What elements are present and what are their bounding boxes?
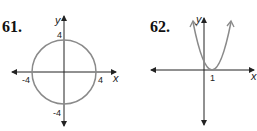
tick-bottom: -4 — [53, 108, 61, 118]
tick-x-1: 1 — [210, 73, 215, 83]
y-axis-label: y — [195, 13, 203, 25]
tick-left: -4 — [22, 75, 30, 85]
y-axis-label: y — [54, 14, 62, 26]
graph-62: y x 1 — [151, 13, 257, 125]
graphs: y x 4 -4 -4 4 y x 1 — [0, 0, 257, 131]
tick-top: 4 — [57, 30, 62, 40]
x-axis-label: x — [250, 70, 257, 82]
tick-right: 4 — [98, 75, 103, 85]
parabola-curve — [193, 22, 231, 70]
graph-61: y x 4 -4 -4 4 — [12, 14, 119, 126]
x-axis-label: x — [112, 72, 119, 84]
